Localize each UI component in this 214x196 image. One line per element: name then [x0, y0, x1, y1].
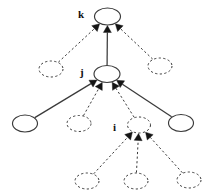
edges-layer	[35, 24, 183, 174]
edge-j_c4-to-j	[122, 84, 171, 117]
edge-j_c2-to-j	[83, 89, 98, 116]
node-k_left[interactable]	[39, 61, 63, 77]
edge-k_left-to-k	[58, 29, 94, 63]
node-label-k: k	[78, 9, 84, 20]
edge-i_c3-to-i	[150, 137, 182, 172]
arrowhead-i_c2-to-i	[134, 133, 142, 140]
edge-i_c2-to-i	[136, 140, 138, 172]
arrowhead-j-to-k	[103, 26, 111, 33]
edge-j_c1-to-j	[35, 84, 91, 118]
edge-i-to-j	[116, 88, 134, 117]
node-label-j: j	[80, 67, 84, 78]
node-j_c4[interactable]	[169, 115, 194, 132]
node-i[interactable]	[128, 117, 151, 133]
node-label-i: i	[113, 122, 116, 133]
graph-svg	[0, 0, 214, 196]
node-i_c2[interactable]	[124, 173, 148, 189]
edge-k_right-to-k	[120, 29, 152, 59]
node-i_c1[interactable]	[75, 173, 99, 189]
node-i_c3[interactable]	[177, 172, 201, 188]
node-j_c1[interactable]	[13, 115, 38, 132]
arrowhead-j_c2-to-j	[95, 82, 102, 90]
arrowhead-i_c3-to-i	[146, 132, 154, 140]
node-j_c2[interactable]	[67, 116, 91, 132]
node-k[interactable]	[95, 8, 121, 25]
edge-i_c1-to-i	[94, 137, 128, 174]
diagram-canvas: k j i	[0, 0, 214, 196]
node-j[interactable]	[94, 66, 120, 83]
node-k_right[interactable]	[148, 58, 172, 74]
